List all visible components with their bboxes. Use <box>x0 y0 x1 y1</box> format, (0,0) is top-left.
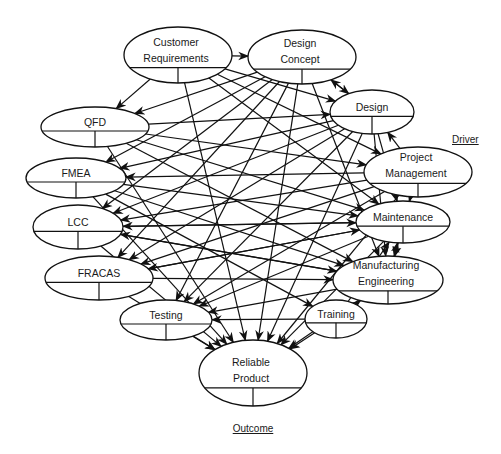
node-rp: ReliableProduct <box>199 340 307 406</box>
node-label: Design <box>284 37 317 49</box>
node-tst: Testing <box>120 300 212 340</box>
edge-pm-to-des <box>388 132 400 148</box>
node-label: Engineering <box>358 275 414 287</box>
reliability-influence-diagram: CustomerRequirementsDesignConceptQFDDesi… <box>0 0 501 454</box>
node-label: QFD <box>84 116 107 128</box>
node-mnt: Maintenance <box>356 201 450 243</box>
node-label: Requirements <box>143 52 208 64</box>
node-label: Project <box>400 151 433 163</box>
edge-trn-to-rp <box>290 333 315 349</box>
edge-qfd-to-des <box>148 114 330 124</box>
node-qfd: QFD <box>41 107 149 147</box>
node-dc: DesignConcept <box>248 30 356 84</box>
node-label: Customer <box>153 36 199 48</box>
node-label: Concept <box>280 53 319 65</box>
edge-mfg-to-mnt <box>394 243 397 256</box>
edge-trn-to-tst <box>212 319 305 320</box>
driver-label: Driver <box>452 134 479 145</box>
edge-dc-to-frc <box>118 82 280 258</box>
node-label: Reliable <box>232 356 270 368</box>
edge-fmea-to-mnt <box>123 184 358 216</box>
node-label: Maintenance <box>373 211 433 223</box>
node-trn: Training <box>305 300 367 338</box>
node-fmea: FMEA <box>26 158 126 198</box>
edge-dc-to-rp <box>258 84 298 340</box>
edge-frc-to-mfg <box>153 278 333 279</box>
node-frc: FRACAS <box>45 256 153 300</box>
node-lcc: LCC <box>33 205 123 249</box>
node-mfg: ManufacturingEngineering <box>333 256 443 304</box>
nodes-layer: CustomerRequirementsDesignConceptQFDDesi… <box>26 27 472 406</box>
edge-cr-to-qfd <box>116 79 150 109</box>
edge-des-to-lcc <box>113 125 338 213</box>
node-label: Manufacturing <box>353 259 420 271</box>
edge-des-to-dc <box>331 80 349 94</box>
node-label: Design <box>356 101 389 113</box>
node-cr: CustomerRequirements <box>124 27 232 83</box>
edge-qfd-to-mfg <box>126 143 353 261</box>
node-des: Design <box>330 90 414 134</box>
node-pm: ProjectManagement <box>364 147 472 197</box>
node-label: Training <box>317 308 355 320</box>
node-label: Testing <box>149 309 182 321</box>
outcome-label: Outcome <box>233 423 274 434</box>
node-label: Management <box>385 167 446 179</box>
node-label: FRACAS <box>78 267 121 279</box>
node-label: LCC <box>67 216 88 228</box>
node-label: Product <box>233 372 269 384</box>
node-label: FMEA <box>61 167 90 179</box>
